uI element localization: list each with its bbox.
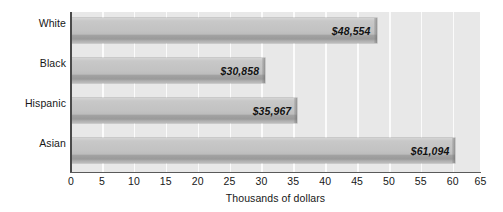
x-tick-15: 15 <box>160 175 172 187</box>
x-tick-50: 50 <box>383 175 395 187</box>
x-axis-line <box>70 172 481 173</box>
x-tick-25: 25 <box>224 175 236 187</box>
category-axis-labels: White Black Hispanic Asian <box>0 12 66 172</box>
category-label-white: White <box>0 18 66 29</box>
category-label-hispanic: Hispanic <box>0 98 66 109</box>
plot-area: $48,554 $30,858 $35,967 $61,094 <box>71 12 480 172</box>
bar-asian: $61,094 <box>71 138 455 163</box>
y-axis-line <box>70 12 72 172</box>
bar-cap <box>294 98 297 123</box>
bar-value-asian: $61,094 <box>411 145 450 157</box>
x-tick-5: 5 <box>99 175 105 187</box>
bar-hispanic: $35,967 <box>71 98 297 123</box>
bar-value-black: $30,858 <box>221 65 260 77</box>
x-tick-0: 0 <box>68 175 74 187</box>
bar-chart: White Black Hispanic Asian $48,554 <box>0 0 503 212</box>
category-label-black: Black <box>0 58 66 69</box>
x-axis-title: Thousands of dollars <box>71 192 480 204</box>
bar-white: $48,554 <box>71 18 377 43</box>
x-axis-tick-labels: 0 5 10 15 20 25 30 35 40 45 50 55 60 65 <box>0 175 503 189</box>
bar-value-white: $48,554 <box>332 25 371 37</box>
x-tick-35: 35 <box>287 175 299 187</box>
x-tick-45: 45 <box>351 175 363 187</box>
bar-cap <box>262 58 265 83</box>
x-tick-30: 30 <box>255 175 267 187</box>
plot-inner: $48,554 $30,858 $35,967 $61,094 <box>71 12 480 172</box>
bar-cap <box>374 18 377 43</box>
bar-value-hispanic: $35,967 <box>253 105 292 117</box>
x-tick-55: 55 <box>415 175 427 187</box>
bar-black: $30,858 <box>71 58 265 83</box>
x-tick-10: 10 <box>128 175 140 187</box>
x-tick-65: 65 <box>475 175 487 187</box>
x-tick-60: 60 <box>447 175 459 187</box>
bar-cap <box>452 138 455 163</box>
x-tick-40: 40 <box>319 175 331 187</box>
category-label-asian: Asian <box>0 138 66 149</box>
x-tick-20: 20 <box>192 175 204 187</box>
